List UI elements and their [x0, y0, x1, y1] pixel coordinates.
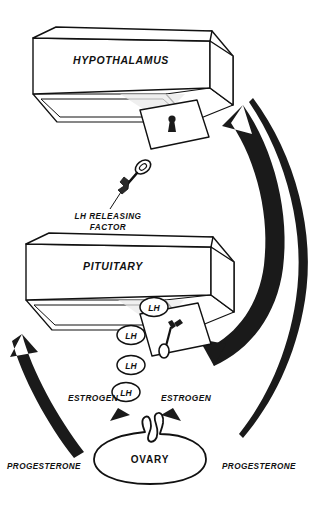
lh-releasing-factor-label-line2: FACTOR	[90, 223, 127, 232]
key-icon	[110, 157, 153, 209]
ovary-shape: OVARY	[94, 413, 206, 484]
pituitary-label: PITUITARY	[83, 260, 143, 272]
endocrine-feedback-diagram: HYPOTHALAMUS LH RELEASING FACTOR	[0, 0, 327, 509]
estrogen-label-left: ESTROGEN	[68, 393, 119, 403]
lh-token-label: LH	[148, 303, 160, 313]
hypothalamus-box: HYPOTHALAMUS	[33, 27, 233, 149]
lh-token-label: LH	[125, 361, 137, 371]
progesterone-label-left: PROGESTERONE	[7, 462, 81, 471]
ovary-label: OVARY	[131, 454, 169, 465]
estrogen-label-right: ESTROGEN	[161, 393, 212, 403]
lh-token-2: LH	[117, 326, 145, 345]
lh-token-label: LH	[125, 331, 137, 341]
thick-curved-arrow-icon	[199, 105, 285, 366]
progesterone-label-right: PROGESTERONE	[222, 462, 296, 471]
diagram-canvas: HYPOTHALAMUS LH RELEASING FACTOR	[0, 0, 327, 509]
small-arrowhead-icon	[110, 408, 130, 421]
lh-token-1: LH	[140, 298, 168, 317]
hypothalamus-label: HYPOTHALAMUS	[73, 54, 169, 66]
lh-releasing-factor-label-line1: LH RELEASING	[75, 212, 142, 221]
lh-token-3: LH	[117, 356, 145, 375]
lh-token-label: LH	[120, 388, 132, 398]
